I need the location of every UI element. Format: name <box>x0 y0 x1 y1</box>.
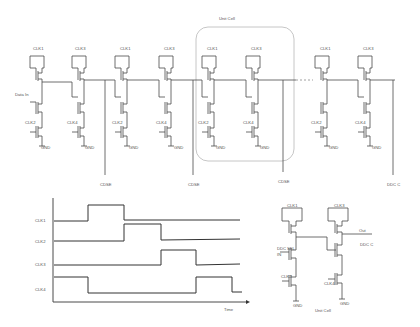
stage-2 <box>72 56 87 146</box>
uc-input-label-top: DDC <box>277 246 286 251</box>
stage-3 <box>115 56 130 146</box>
output-label-2: CDSE <box>188 182 200 187</box>
uc-top-clk-left: CLK1 <box>287 203 298 208</box>
stage-5-bot-clk: CLK2 <box>198 120 209 125</box>
uc-top-clk-right: CLK3 <box>334 203 345 208</box>
stage-3-bot-clk: CLK2 <box>112 120 123 125</box>
clk2-waveform <box>54 224 240 241</box>
clk1-label: CLK1 <box>35 218 46 223</box>
stage-7-gnd: GND <box>329 145 338 150</box>
clk4-label: CLK4 <box>35 287 46 292</box>
stage-1-gnd: GND <box>41 145 50 150</box>
top-schematic: Unit Cell CLK1 CLK2 GND Data In CLK3 CLK… <box>15 16 400 187</box>
clk1-waveform <box>54 205 240 221</box>
uc-input-label-sel: SEL <box>287 246 296 251</box>
stage-2-top-clk: CLK3 <box>75 46 86 51</box>
timing-axes <box>53 198 246 302</box>
uc-gnd-left: GND <box>293 303 302 308</box>
stage-1 <box>30 56 45 146</box>
output-label-1: CDSE <box>100 182 112 187</box>
stage-4-bot-clk: CLK4 <box>156 120 167 125</box>
timing-diagram: Time CLK1 CLK2 CLK3 CLK4 <box>35 198 250 312</box>
stage-3-gnd: GND <box>129 145 138 150</box>
stage-4 <box>159 56 174 146</box>
uc-input-label-in: IN <box>277 252 281 257</box>
time-axis-arrow-icon <box>246 300 250 304</box>
unit-cell-left-stage <box>282 208 302 301</box>
stage-4-top-clk: CLK3 <box>164 46 175 51</box>
stage-7-top-clk: CLK1 <box>320 46 331 51</box>
stage-1-top-clk: CLK1 <box>33 46 44 51</box>
uc-out-label: Out <box>359 228 367 233</box>
data-in-label: Data In <box>15 92 29 97</box>
clk4-waveform <box>54 277 242 293</box>
output-label-3: CDSE <box>278 179 290 184</box>
uc-bot-clk-left: CLK2 <box>281 274 292 279</box>
stage-8-gnd: GND <box>372 145 381 150</box>
stage-2-bot-clk: CLK4 <box>67 120 78 125</box>
stage-5-gnd: GND <box>216 145 225 150</box>
stage-6-gnd: GND <box>260 145 269 150</box>
clk3-waveform <box>54 250 240 265</box>
stage-8 <box>358 56 373 146</box>
stage-8-top-clk: CLK3 <box>363 46 374 51</box>
clk2-label: CLK2 <box>35 239 46 244</box>
unit-cell-label: Unit Cell <box>219 16 235 21</box>
uc-caption: Unit Cell <box>315 308 331 313</box>
stage-5-top-clk: CLK1 <box>207 46 218 51</box>
stage-4-gnd: GND <box>174 145 183 150</box>
stage-7 <box>315 56 330 146</box>
stage-5 <box>202 56 217 146</box>
stage-1-bot-clk: CLK2 <box>25 120 36 125</box>
output-label-4: DDC C <box>387 182 400 187</box>
stage-6-bot-clk: CLK4 <box>243 120 254 125</box>
unit-cell-detail: CLK1 DDC SEL IN CLK2 GND CLK3 CLK4 GND <box>277 203 373 313</box>
stage-2-gnd: GND <box>85 145 94 150</box>
uc-bot-clk-right: CLK4 <box>324 281 335 286</box>
clk3-label: CLK3 <box>35 262 46 267</box>
stage-7-bot-clk: CLK2 <box>311 120 322 125</box>
uc-gnd-right: GND <box>340 301 349 306</box>
uc-out-sub-label: DDC C <box>360 242 373 247</box>
time-axis-label: Time <box>224 307 234 312</box>
stage-6-top-clk: CLK3 <box>251 46 262 51</box>
stage-3-top-clk: CLK1 <box>120 46 131 51</box>
stage-6 <box>246 56 261 146</box>
circuit-diagram: Unit Cell CLK1 CLK2 GND Data In CLK3 CLK… <box>0 0 420 327</box>
stage-8-bot-clk: CLK4 <box>355 120 366 125</box>
